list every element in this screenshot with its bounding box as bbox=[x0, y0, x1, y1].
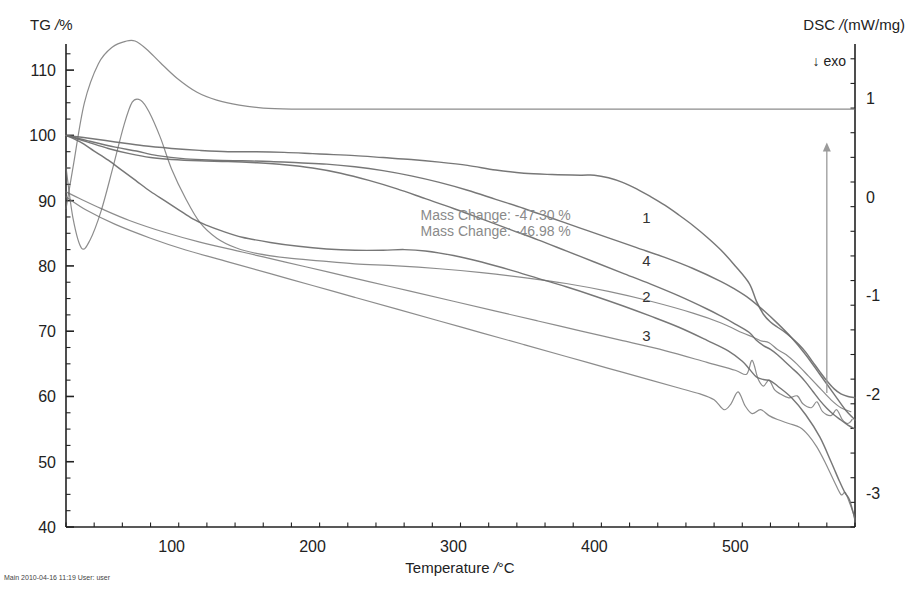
left-axis-tick-label: 40 bbox=[38, 519, 56, 536]
curve-label-4: 4 bbox=[642, 252, 650, 269]
right-axis-tick-label: 1 bbox=[866, 90, 875, 107]
right-axis-title: DSC /(mW/mg) bbox=[803, 16, 905, 33]
mass-change-1: Mass Change: -47.30 % bbox=[421, 207, 571, 223]
right-axis-tick-label: -1 bbox=[866, 287, 880, 304]
x-axis-tick-label: 100 bbox=[158, 538, 185, 555]
chart-canvas: 405060708090100110 10-1-2-3 100200300400… bbox=[0, 0, 917, 597]
footer-metadata: Main 2010-04-16 11:19 User: user bbox=[4, 574, 111, 581]
left-axis-tick-label: 90 bbox=[38, 193, 56, 210]
right-axis-tick-label: -3 bbox=[866, 485, 880, 502]
left-axis-title: TG /% bbox=[30, 16, 73, 33]
left-axis-tick-label: 70 bbox=[38, 323, 56, 340]
curve-label-3: 3 bbox=[642, 327, 650, 344]
chart-background bbox=[0, 0, 917, 597]
curve-label-2: 2 bbox=[642, 288, 650, 305]
right-axis-tick-label: -2 bbox=[866, 386, 880, 403]
x-axis-tick-label: 300 bbox=[440, 538, 467, 555]
left-axis-tick-label: 60 bbox=[38, 388, 56, 405]
left-axis-tick-label: 80 bbox=[38, 258, 56, 275]
x-axis-title: Temperature /°C bbox=[405, 559, 515, 576]
exo-direction-marker: ↓ exo bbox=[813, 53, 847, 69]
mass-change-2: Mass Change: -46.98 % bbox=[421, 223, 571, 239]
x-axis-tick-label: 500 bbox=[722, 538, 749, 555]
mass-change-annotations: Mass Change: -47.30 %Mass Change: -46.98… bbox=[421, 207, 571, 239]
left-axis-tick-label: 100 bbox=[29, 127, 56, 144]
right-axis-tick-label: 0 bbox=[866, 189, 875, 206]
tg-dsc-chart-figure: 405060708090100110 10-1-2-3 100200300400… bbox=[0, 0, 917, 597]
curve-label-1: 1 bbox=[642, 209, 650, 226]
left-axis-tick-label: 110 bbox=[30, 62, 56, 79]
left-axis-tick-label: 50 bbox=[38, 454, 56, 471]
x-axis-tick-label: 400 bbox=[581, 538, 608, 555]
x-axis-tick-label: 200 bbox=[299, 538, 326, 555]
